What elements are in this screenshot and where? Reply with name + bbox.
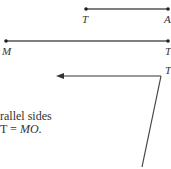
- point-a: [166, 7, 170, 11]
- caption-suffix: .: [39, 122, 42, 136]
- caption-prefix: T =: [0, 122, 20, 136]
- label-t3: T: [165, 64, 171, 76]
- point-m: [4, 39, 8, 43]
- caption-line-2: T = MO.: [0, 122, 42, 137]
- arrow-construction: T: [56, 64, 171, 167]
- arrowhead-icon: [56, 73, 64, 79]
- geometry-diagram: T A M T T: [0, 0, 171, 169]
- point-t: [84, 7, 88, 11]
- caption-italic: MO: [20, 122, 39, 136]
- segment-ta: T A: [82, 7, 171, 25]
- segment-mt: M T: [1, 39, 171, 57]
- point-t2: [166, 39, 170, 43]
- label-m: M: [1, 45, 12, 57]
- label-t2: T: [165, 45, 171, 57]
- label-a: A: [163, 13, 171, 25]
- label-t: T: [82, 13, 89, 25]
